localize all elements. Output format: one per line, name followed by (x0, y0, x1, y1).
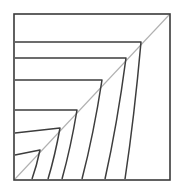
figure-background (0, 0, 181, 192)
nested-corner-figure: Nested corner band line drawing (0, 0, 181, 192)
